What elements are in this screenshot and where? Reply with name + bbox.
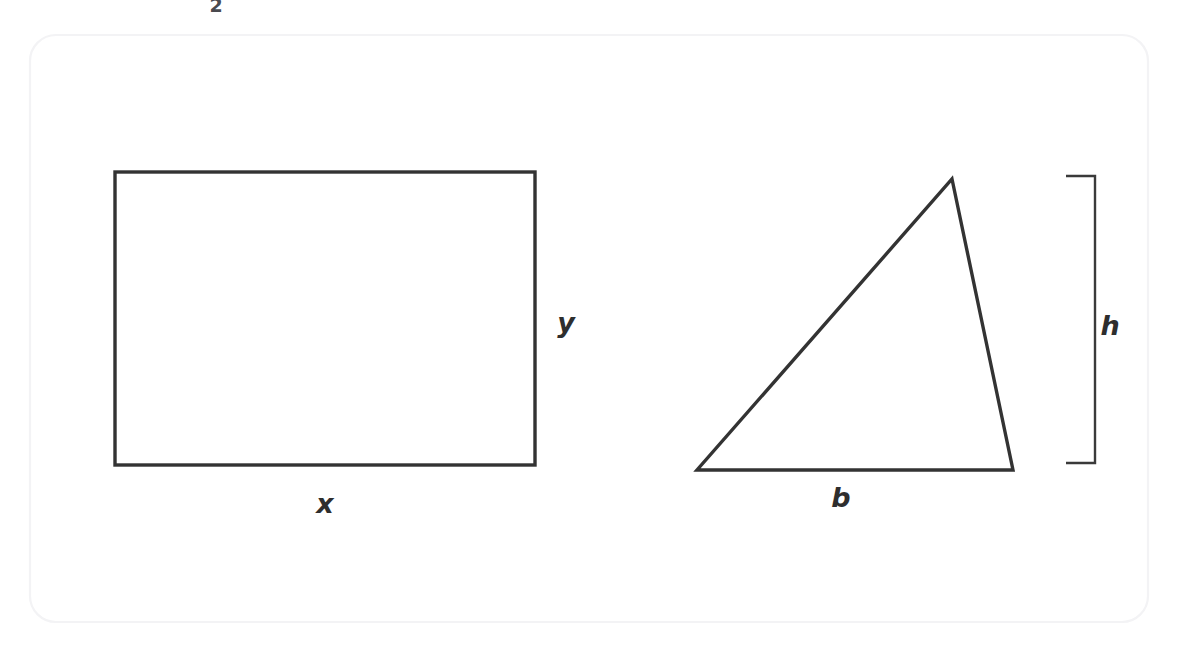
rectangle-shape (115, 172, 535, 465)
height-bracket (1066, 176, 1095, 463)
triangle-base-label: b (831, 484, 850, 511)
triangle-figure (697, 179, 1013, 470)
rectangle-figure (115, 172, 535, 465)
height-bracket-path (1066, 176, 1095, 463)
triangle-height-label: h (1100, 312, 1119, 339)
figure-canvas: 2 x y b h (0, 0, 1180, 650)
geometry-figure-svg (0, 0, 1180, 650)
stray-exponent-mark: 2 (209, 0, 222, 15)
rectangle-height-label: y (557, 309, 575, 336)
triangle-shape (697, 179, 1013, 470)
rectangle-width-label: x (316, 490, 333, 517)
